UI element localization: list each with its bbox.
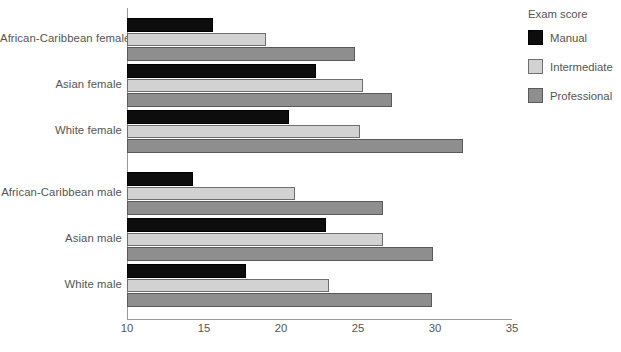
x-axis-tick-25: 25 bbox=[352, 322, 365, 334]
x-axis-tick-20: 20 bbox=[275, 322, 288, 334]
x-axis-tick-35: 35 bbox=[506, 322, 519, 334]
bar-intermediate-0 bbox=[127, 33, 266, 47]
y-axis-labels: African-Caribbean femaleAsian femaleWhit… bbox=[0, 0, 122, 320]
legend-label-professional: Professional bbox=[550, 90, 612, 102]
legend-item-intermediate[interactable]: Intermediate bbox=[528, 59, 620, 74]
x-axis-tick-labels: 101520253035 bbox=[127, 322, 527, 342]
bar-professional-1 bbox=[127, 93, 392, 107]
y-axis-label-5: White male bbox=[0, 278, 122, 290]
bar-professional-3 bbox=[127, 201, 383, 215]
y-axis-label-0: African-Caribbean female bbox=[0, 32, 122, 44]
bar-professional-2 bbox=[127, 139, 463, 153]
bar-manual-2 bbox=[127, 110, 289, 124]
legend-title: Exam score bbox=[528, 8, 620, 20]
legend-swatch-intermediate-icon bbox=[528, 59, 543, 74]
bar-professional-5 bbox=[127, 293, 432, 307]
x-axis-tick-30: 30 bbox=[429, 322, 442, 334]
bar-intermediate-4 bbox=[127, 233, 383, 247]
legend: Exam score ManualIntermediateProfessiona… bbox=[528, 8, 620, 117]
plot-area bbox=[127, 8, 512, 320]
bar-manual-0 bbox=[127, 18, 213, 32]
x-axis-line bbox=[127, 319, 512, 320]
bar-chart: African-Caribbean femaleAsian femaleWhit… bbox=[0, 0, 621, 352]
bar-professional-0 bbox=[127, 47, 355, 61]
bar-manual-1 bbox=[127, 64, 316, 78]
legend-label-manual: Manual bbox=[550, 32, 587, 44]
bar-manual-3 bbox=[127, 172, 193, 186]
legend-swatch-manual-icon bbox=[528, 30, 543, 45]
y-axis-label-1: Asian female bbox=[0, 78, 122, 90]
bar-intermediate-2 bbox=[127, 125, 360, 139]
bar-intermediate-5 bbox=[127, 279, 329, 293]
x-axis-tick-10: 10 bbox=[121, 322, 134, 334]
y-axis-label-4: Asian male bbox=[0, 232, 122, 244]
legend-label-intermediate: Intermediate bbox=[550, 61, 613, 73]
y-axis-label-3: African-Caribbean male bbox=[0, 186, 122, 198]
x-axis-tick-15: 15 bbox=[198, 322, 211, 334]
bar-intermediate-1 bbox=[127, 79, 363, 93]
bar-intermediate-3 bbox=[127, 187, 295, 201]
legend-item-manual[interactable]: Manual bbox=[528, 30, 620, 45]
legend-item-professional[interactable]: Professional bbox=[528, 88, 620, 103]
bar-manual-5 bbox=[127, 264, 246, 278]
y-axis-label-2: White female bbox=[0, 124, 122, 136]
bar-manual-4 bbox=[127, 218, 326, 232]
legend-swatch-professional-icon bbox=[528, 88, 543, 103]
bar-professional-4 bbox=[127, 247, 433, 261]
legend-items: ManualIntermediateProfessional bbox=[528, 30, 620, 103]
